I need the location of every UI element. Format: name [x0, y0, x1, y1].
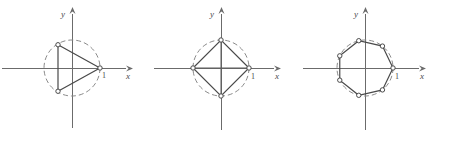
panel-1-canvas: 1 x y [0, 0, 149, 146]
panel-fourth-roots: 1 x y [150, 0, 300, 146]
roots-of-unity-figure-row: 1 x y [0, 0, 449, 146]
panel-1-caption [0, 138, 150, 146]
x-axis-label: x [419, 71, 424, 81]
y-axis-label: y [60, 9, 65, 19]
x-axis-label: x [125, 71, 130, 81]
y-axis [70, 7, 76, 128]
y-axis-label: y [353, 9, 358, 19]
panel-seventh-roots: 1 x y [299, 0, 449, 146]
panel-3-canvas: 1 x y [299, 0, 448, 146]
unit-point-label: 1 [395, 72, 399, 81]
panel-2-canvas: 1 x y [150, 0, 299, 146]
unit-point-label: 1 [102, 71, 106, 80]
x-axis [303, 66, 426, 72]
panel-3-caption [299, 138, 449, 146]
panel-2-caption [150, 138, 300, 146]
x-axis-label: x [274, 71, 279, 81]
y-axis-label: y [209, 9, 214, 19]
panel-cube-roots: 1 x y [0, 0, 150, 146]
x-axis [2, 66, 133, 72]
unit-point-label: 1 [251, 72, 255, 81]
